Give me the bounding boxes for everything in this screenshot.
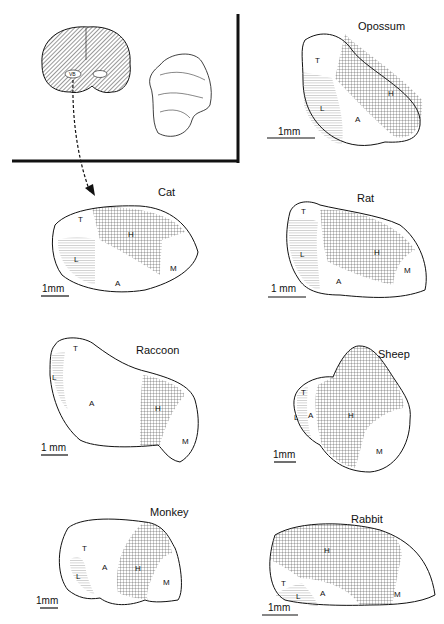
svg-text:L: L (294, 413, 299, 422)
dashed-arrow-icon (73, 80, 95, 196)
svg-text:T: T (82, 544, 87, 553)
svg-text:1 mm: 1 mm (41, 442, 66, 453)
svg-text:L: L (76, 572, 81, 581)
panel-sheep: Sheep T L A H M 1mm (273, 346, 410, 472)
svg-text:L: L (320, 104, 325, 113)
svg-text:1mm: 1mm (278, 126, 300, 137)
svg-text:M: M (394, 590, 401, 599)
svg-text:A: A (336, 277, 342, 286)
panel-cat: Cat T H L A M 1mm (41, 186, 198, 296)
svg-text:L: L (52, 373, 57, 382)
svg-text:A: A (115, 279, 121, 288)
svg-text:Rat: Rat (357, 192, 374, 204)
svg-text:A: A (102, 563, 108, 572)
svg-text:M: M (182, 437, 189, 446)
svg-text:L: L (300, 250, 305, 259)
panel-opossum: Opossum T H L A 1mm (267, 20, 422, 145)
brain-section-icon: VB (42, 27, 130, 93)
svg-text:M: M (170, 264, 177, 273)
svg-text:Cat: Cat (158, 186, 175, 198)
svg-text:A: A (89, 399, 95, 408)
svg-text:H: H (135, 564, 141, 573)
svg-text:L: L (296, 592, 301, 601)
svg-text:H: H (128, 230, 134, 239)
svg-text:H: H (155, 404, 161, 413)
svg-text:1mm: 1mm (36, 595, 58, 606)
svg-text:H: H (324, 546, 330, 555)
svg-text:M: M (404, 266, 411, 275)
svg-text:T: T (73, 344, 78, 353)
panel-monkey: Monkey T A L H M 1mm (36, 506, 189, 608)
svg-text:A: A (308, 411, 314, 420)
svg-text:Sheep: Sheep (378, 348, 410, 360)
svg-text:1 mm: 1 mm (271, 283, 296, 294)
svg-text:VB: VB (69, 71, 76, 77)
svg-text:Raccoon: Raccoon (136, 344, 179, 356)
svg-text:T: T (315, 56, 320, 65)
svg-text:H: H (374, 248, 380, 257)
svg-text:M: M (376, 447, 383, 456)
panel-rabbit: Rabbit H T L A M 1mm (262, 513, 435, 615)
svg-text:T: T (301, 388, 306, 397)
figure-canvas: VB Opossum T H L A 1mm Cat T H L A M 1mm (0, 0, 444, 624)
svg-text:1mm: 1mm (268, 602, 290, 613)
svg-text:A: A (320, 589, 326, 598)
svg-text:T: T (78, 215, 83, 224)
svg-text:Opossum: Opossum (358, 20, 405, 32)
svg-text:T: T (281, 579, 286, 588)
panel-rat: Rat T L H A M 1 mm (268, 192, 426, 297)
svg-text:Rabbit: Rabbit (351, 513, 383, 525)
svg-text:1mm: 1mm (42, 283, 64, 294)
svg-text:H: H (348, 411, 354, 420)
svg-text:1mm: 1mm (273, 449, 295, 460)
svg-text:T: T (301, 207, 306, 216)
cerebellum-drawing (150, 54, 212, 136)
panel-raccoon: Raccoon T L A H M 1 mm (41, 338, 198, 462)
svg-text:H: H (388, 89, 394, 98)
svg-text:L: L (74, 255, 79, 264)
svg-text:A: A (355, 115, 361, 124)
svg-text:M: M (163, 578, 170, 587)
svg-text:Monkey: Monkey (150, 506, 189, 518)
